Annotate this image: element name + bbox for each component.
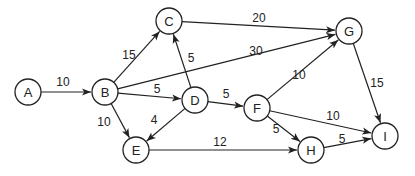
- graph-svg: 101530510520451015105125 ABCGDFEHI: [0, 0, 415, 176]
- edge-weight-label: 15: [122, 48, 136, 62]
- node-g: G: [336, 18, 362, 44]
- edge-weight-label: 5: [223, 87, 230, 101]
- edges-layer: 101530510520451015105125: [41, 11, 384, 150]
- node-h: H: [298, 137, 324, 163]
- edge-f-h: 5: [267, 116, 300, 141]
- edge-line: [111, 103, 129, 137]
- node-label: I: [383, 129, 387, 144]
- edge-weight-label: 12: [213, 135, 227, 149]
- edge-weight-label: 20: [252, 11, 266, 25]
- edge-line: [114, 31, 160, 82]
- node-label: B: [101, 85, 110, 100]
- node-label: G: [344, 24, 354, 39]
- edge-g-i: 15: [353, 43, 384, 122]
- node-e: E: [123, 137, 149, 163]
- edge-h-i: 5: [324, 132, 371, 148]
- edge-c-g: 20: [182, 11, 335, 30]
- edge-weight-label: 10: [326, 109, 340, 123]
- node-d: D: [182, 87, 208, 113]
- edge-weight-label: 10: [97, 115, 111, 129]
- node-label: F: [253, 101, 261, 116]
- edge-line: [208, 102, 243, 107]
- edge-weight-label: 15: [370, 76, 384, 90]
- node-label: D: [190, 93, 199, 108]
- node-label: E: [132, 143, 141, 158]
- edge-d-f: 5: [208, 87, 243, 106]
- graph-diagram: 101530510520451015105125 ABCGDFEHI: [0, 0, 415, 176]
- node-f: F: [244, 95, 270, 121]
- node-label: A: [24, 85, 33, 100]
- node-label: H: [306, 143, 315, 158]
- node-label: C: [164, 14, 173, 29]
- node-a: A: [15, 79, 41, 105]
- node-i: I: [372, 123, 398, 149]
- edge-d-c: 5: [173, 34, 194, 87]
- edge-weight-label: 5: [273, 122, 280, 136]
- edge-a-b: 10: [41, 75, 91, 92]
- edge-weight-label: 30: [249, 44, 263, 58]
- edge-weight-label: 5: [339, 132, 346, 146]
- edge-d-e: 4: [147, 108, 185, 141]
- edge-line: [118, 93, 181, 99]
- edge-weight-label: 10: [56, 75, 70, 89]
- node-c: C: [156, 8, 182, 34]
- node-b: B: [92, 79, 118, 105]
- edge-line: [324, 139, 371, 148]
- edge-weight-label: 5: [188, 51, 195, 65]
- edge-b-d: 5: [118, 82, 181, 99]
- edge-weight-label: 4: [151, 113, 158, 127]
- edge-b-c: 15: [114, 31, 160, 82]
- edge-weight-label: 5: [154, 82, 161, 96]
- edge-e-h: 12: [149, 135, 297, 150]
- edge-b-e: 10: [97, 103, 129, 137]
- edge-weight-label: 10: [292, 68, 306, 82]
